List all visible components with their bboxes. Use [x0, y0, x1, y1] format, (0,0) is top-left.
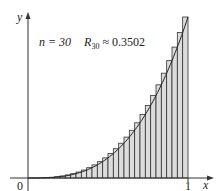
- riemann-bar: [172, 47, 177, 178]
- origin-label: 0: [17, 179, 23, 191]
- riemann-bar: [135, 123, 140, 178]
- riemann-bar: [145, 105, 150, 178]
- riemann-bar: [183, 17, 188, 178]
- riemann-bar: [140, 115, 145, 178]
- y-axis-label: y: [16, 10, 23, 24]
- riemann-bar: [156, 85, 161, 178]
- riemann-bar: [129, 130, 134, 178]
- r-subscript: 30: [91, 42, 99, 51]
- y-axis-arrow-icon: [26, 12, 31, 19]
- n-label: n = 30: [39, 35, 71, 49]
- riemann-sum-chart: 0 1 x y n = 30 R30 ≈ 0.3502: [0, 0, 216, 191]
- riemann-bar: [124, 137, 129, 178]
- annotation: n = 30 R30 ≈ 0.3502: [39, 35, 145, 51]
- riemann-bar: [151, 96, 156, 178]
- riemann-bar: [177, 33, 182, 178]
- riemann-bar: [161, 73, 166, 178]
- riemann-bar: [167, 61, 172, 178]
- x-tick-label-one: 1: [185, 179, 191, 191]
- r-value: ≈ 0.3502: [99, 35, 145, 49]
- x-axis-label: x: [202, 178, 209, 191]
